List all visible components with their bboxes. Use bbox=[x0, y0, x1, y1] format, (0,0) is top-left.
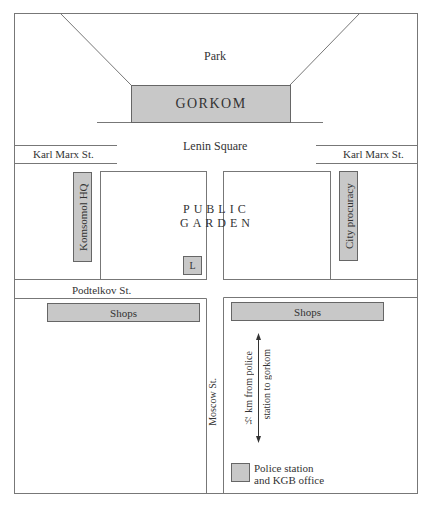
police-station-legend-line2: and KGB office bbox=[254, 475, 324, 486]
shops-left-building: Shops bbox=[47, 303, 200, 322]
park-diagonal-left bbox=[60, 13, 131, 85]
public-garden-label-line1: PUBLIC bbox=[183, 203, 250, 215]
moscow-street-label: Moscow St. bbox=[208, 378, 218, 426]
city-procuracy-building: City procuracy bbox=[339, 171, 358, 261]
podtelkov-street-label: Podtelkov St. bbox=[72, 285, 131, 296]
lenin-statue-marker: L bbox=[183, 256, 202, 275]
karl-marx-street-left-label: Karl Marx St. bbox=[33, 149, 94, 160]
police-station-legend-line1: Police station bbox=[254, 463, 314, 474]
distance-annotation-line2: station to gorkom bbox=[262, 349, 272, 420]
police-station-legend-swatch bbox=[231, 463, 250, 482]
park-diagonal-right bbox=[290, 13, 360, 85]
gorkom-building: GORKOM bbox=[131, 85, 291, 123]
komsomol-hq-building: Komsomol HQ bbox=[73, 172, 92, 262]
public-garden-label-line2: GARDEN bbox=[180, 217, 254, 229]
lenin-square-label: Lenin Square bbox=[183, 140, 247, 152]
shops-right-building: Shops bbox=[231, 302, 384, 321]
distance-annotation-line1: ½ km from police bbox=[244, 351, 254, 426]
karl-marx-street-right-label: Karl Marx St. bbox=[343, 149, 404, 160]
park-label: Park bbox=[204, 50, 226, 62]
map-lines bbox=[0, 0, 430, 506]
